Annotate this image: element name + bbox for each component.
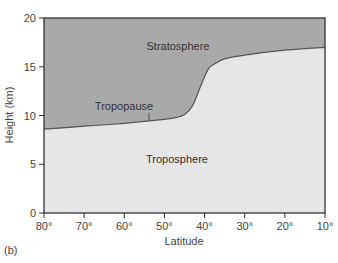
x-axis: 80°70°60°50°40°30°20°10°	[36, 213, 334, 232]
x-tick-label: 40°	[196, 220, 213, 232]
y-tick-label: 0	[30, 207, 36, 219]
x-tick-label: 80°	[36, 220, 53, 232]
y-tick-label: 20	[24, 12, 36, 24]
troposphere-label: Troposphere	[146, 153, 208, 165]
panel-label: (b)	[4, 244, 17, 256]
x-tick-label: 20°	[277, 220, 294, 232]
x-tick-label: 30°	[236, 220, 253, 232]
y-axis-title: Height (km)	[3, 87, 15, 144]
tropopause-chart: 05101520 80°70°60°50°40°30°20°10° Strato…	[0, 0, 338, 263]
x-axis-title: Latitude	[164, 235, 203, 247]
x-tick-label: 60°	[116, 220, 133, 232]
y-tick-label: 10	[24, 110, 36, 122]
y-tick-label: 5	[30, 158, 36, 170]
x-tick-label: 10°	[317, 220, 334, 232]
tropopause-label: Tropopause	[95, 100, 153, 112]
stratosphere-label: Stratosphere	[147, 40, 210, 52]
x-tick-label: 70°	[76, 220, 93, 232]
y-axis: 05101520	[24, 12, 44, 219]
x-tick-label: 50°	[156, 220, 173, 232]
y-tick-label: 15	[24, 61, 36, 73]
